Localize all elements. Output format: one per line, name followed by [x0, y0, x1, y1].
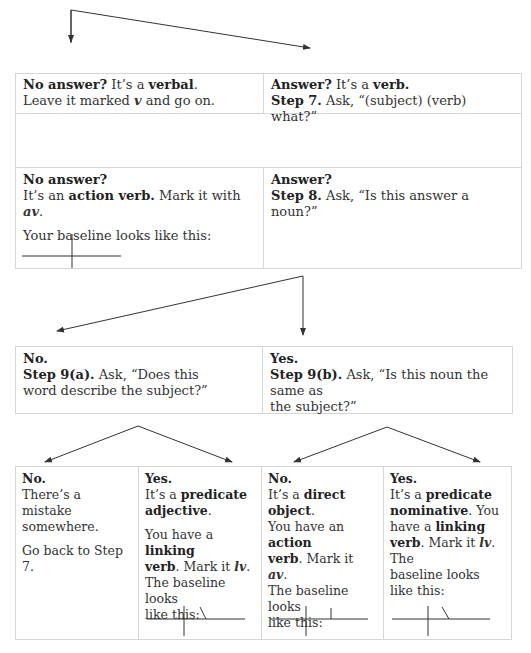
text: .	[283, 567, 287, 582]
text: . Mark it	[176, 559, 235, 574]
label: Answer?	[271, 172, 332, 187]
baseline-diagram-predicate-nominative	[390, 604, 495, 638]
text: like this:	[390, 583, 505, 599]
mark-lv: lv	[234, 559, 246, 574]
term: predicate	[426, 487, 492, 502]
label: Yes.	[390, 471, 417, 486]
term-action-verb: action verb.	[69, 188, 155, 203]
baseline-diagram-av	[20, 232, 125, 268]
no-answer-verbal-cell: No answer? It’s a verbal. Leave it marke…	[15, 73, 263, 113]
text: word describe the subject?”	[23, 383, 254, 399]
text: It’s a	[145, 487, 181, 502]
step-9a-label: Step 9(a).	[23, 367, 95, 382]
text: It’s a	[268, 487, 304, 502]
text: .	[194, 77, 198, 92]
label: No.	[22, 471, 46, 486]
text: There’s a mistake	[22, 487, 131, 519]
term: nominative	[390, 503, 468, 518]
text: It’s a	[107, 77, 148, 92]
text: baseline looks	[390, 567, 505, 583]
term: verb	[268, 551, 299, 566]
go-back-text: Go back to Step 7.	[22, 543, 131, 575]
step-9b-label: Step 9(b).	[270, 367, 342, 382]
step-9a-cell: No. Step 9(a). Ask, “Does this word desc…	[15, 346, 262, 414]
label: No.	[23, 351, 48, 366]
text: .	[208, 503, 212, 518]
term: linking	[145, 543, 195, 558]
text: the subject?”	[270, 399, 505, 415]
term: verb	[390, 535, 421, 550]
text: It’s a	[332, 77, 373, 92]
term: predicate	[181, 487, 247, 502]
step-8-label: Step 8.	[271, 188, 322, 203]
label: Yes.	[270, 351, 298, 366]
text: . Mark it	[421, 535, 480, 550]
text: .	[246, 559, 250, 574]
label: Answer?	[271, 77, 332, 92]
term: adjective	[145, 503, 208, 518]
label: Yes.	[145, 471, 172, 486]
mark-v: v	[134, 93, 142, 108]
text: and go on.	[142, 93, 215, 108]
term-verbal: verbal	[149, 77, 194, 92]
text: have a	[390, 519, 435, 534]
text: . Mark it	[299, 551, 354, 566]
label: No answer?	[23, 77, 107, 92]
term: verb	[145, 559, 176, 574]
term: action	[268, 535, 312, 550]
mark-av: av	[268, 567, 283, 582]
text: .	[311, 503, 315, 518]
answer-noun-cell: Answer? Step 8. Ask, “Is this answer a n…	[263, 167, 522, 269]
text: Leave it marked	[23, 93, 134, 108]
label: No.	[268, 471, 292, 486]
text: Mark it with	[155, 188, 241, 203]
text: You have an	[268, 519, 344, 534]
text: It’s a	[390, 487, 426, 502]
mark-lv: lv	[479, 535, 491, 550]
text: .	[39, 204, 43, 219]
step-7-label: Step 7.	[271, 93, 322, 108]
text: You have a	[145, 527, 213, 542]
label: No answer?	[23, 172, 107, 187]
text: It’s an	[23, 188, 69, 203]
mark-av: av	[23, 204, 39, 219]
text: somewhere.	[22, 519, 131, 535]
term: linking	[435, 519, 485, 534]
term-verb: verb.	[373, 77, 409, 92]
text: Ask, “Does this	[95, 367, 199, 382]
baseline-diagram-predicate-adjective	[145, 604, 250, 638]
text: The baseline looks	[145, 575, 254, 607]
answer-verb-cell: Answer? It’s a verb. Step 7. Ask, “(subj…	[263, 73, 522, 113]
text: . You	[468, 503, 499, 518]
baseline-diagram-direct-object	[268, 604, 373, 638]
step-9b-cell: Yes. Step 9(b). Ask, “Is this noun the s…	[262, 346, 513, 414]
mistake-cell: No. There’s a mistake somewhere. Go back…	[15, 466, 138, 640]
